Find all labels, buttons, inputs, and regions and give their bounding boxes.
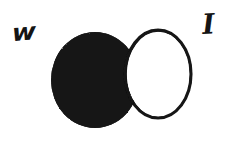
- venn-diagram-canvas: [0, 0, 236, 146]
- set-label-w: w: [12, 19, 36, 45]
- venn-diagram-figure: w I: [0, 0, 236, 146]
- set-label-i: I: [202, 10, 216, 39]
